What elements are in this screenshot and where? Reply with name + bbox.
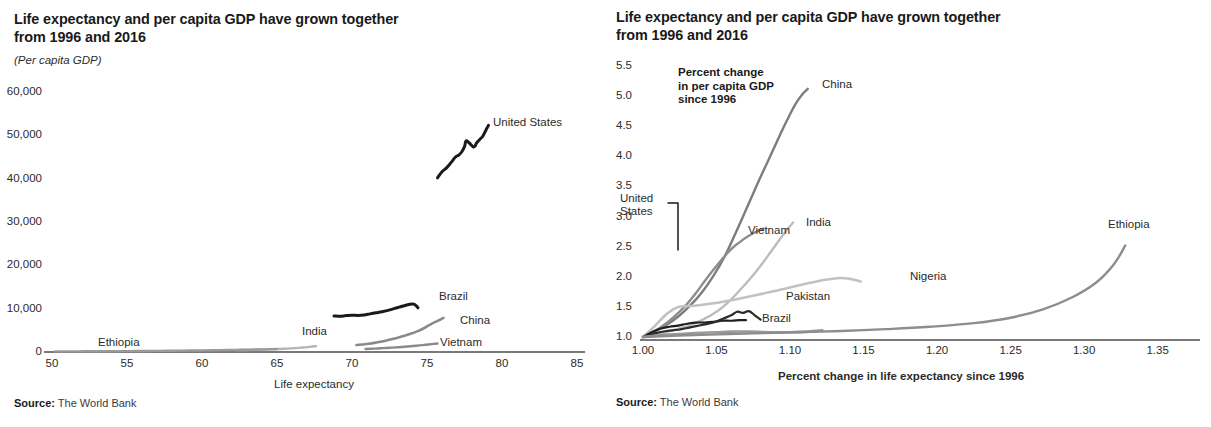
source-text: The World Bank [55, 397, 137, 409]
series-label-nigeria: Nigeria [910, 270, 946, 282]
series-label-china: China [822, 78, 852, 90]
source-note-right: Source: The World Bank [616, 396, 739, 408]
x-tick-label: 1.30 [1066, 344, 1102, 356]
series-label-vietnam: Vietnam [748, 224, 790, 236]
x-tick-label: 1.35 [1140, 344, 1176, 356]
x-axis-title-right: Percent change in life expectancy since … [778, 370, 1024, 382]
right-series-group [643, 89, 1125, 337]
y-tick-label: 50,000 [0, 128, 42, 140]
y-tick-label: 2.0 [606, 270, 632, 282]
y-tick-label: 30,000 [0, 215, 42, 227]
series-line-china [643, 89, 808, 337]
series-line-vietnam [643, 229, 764, 337]
series-label-vietnam: Vietnam [440, 336, 482, 348]
y-tick-label: 1.0 [606, 330, 632, 342]
y-tick-label: 5.5 [606, 59, 632, 71]
x-tick-label: 70 [338, 357, 366, 369]
series-line-brazil [643, 330, 822, 337]
series-line-nigeria [643, 278, 861, 337]
x-tick-label: 85 [563, 357, 591, 369]
source-prefix: Source: [14, 397, 55, 409]
y-tick-label: 3.5 [606, 179, 632, 191]
y-tick-label: 4.0 [606, 149, 632, 161]
page-title: Life expectancy and per capita GDP have … [14, 10, 534, 46]
series-label-india: India [302, 325, 327, 337]
y-tick-label: 2.5 [606, 240, 632, 252]
series-line-ethiopia [55, 349, 277, 351]
x-tick-label: 65 [263, 357, 291, 369]
series-label-ethiopia: Ethiopia [1108, 218, 1150, 230]
y-tick-label: 10,000 [0, 302, 42, 314]
y-tick-label: 40,000 [0, 172, 42, 184]
series-line-pakistan [643, 311, 761, 337]
source-note-left: Source: The World Bank [14, 397, 137, 409]
series-line-china [357, 318, 444, 345]
y-tick-label: 1.5 [606, 300, 632, 312]
series-label-china: China [460, 314, 490, 326]
x-tick-label: 55 [113, 357, 141, 369]
series-line-united-states [643, 320, 746, 337]
series-line-ethiopia [643, 245, 1125, 337]
series-label-brazil: Brazil [439, 290, 468, 302]
x-tick-label: 1.05 [699, 344, 735, 356]
y-tick-label: 0 [0, 345, 42, 357]
x-tick-label: 80 [488, 357, 516, 369]
y-axis-unit-note: (Per capita GDP) [14, 54, 102, 66]
series-label-ethiopia: Ethiopia [98, 336, 140, 348]
x-tick-label: 60 [188, 357, 216, 369]
series-label-india: India [806, 216, 831, 228]
source-text-right: The World Bank [657, 396, 739, 408]
x-tick-label: 1.20 [919, 344, 955, 356]
page-title-right: Life expectancy and per capita GDP have … [616, 8, 1156, 44]
figure-right-percent-change: Life expectancy and per capita GDP have … [600, 0, 1211, 427]
figure-left-per-capita-gdp: Life expectancy and per capita GDP have … [0, 0, 600, 427]
series-label-pakistan: Pakistan [786, 290, 830, 302]
y-tick-label: 60,000 [0, 85, 42, 97]
x-tick-label: 75 [413, 357, 441, 369]
series-line-brazil [334, 304, 418, 316]
series-label-brazil: Brazil [762, 312, 791, 324]
source-prefix-right: Source: [616, 396, 657, 408]
series-line-united-states [438, 125, 489, 177]
x-tick-label: 1.25 [993, 344, 1029, 356]
right-chart-canvas [600, 0, 1211, 427]
y-axis-annotation: Percent change in per capita GDP since 1… [678, 66, 774, 107]
y-tick-label: 4.5 [606, 119, 632, 131]
y-tick-label: 20,000 [0, 258, 42, 270]
series-label-united-states: United States [493, 116, 562, 128]
series-line-vietnam [366, 344, 438, 349]
series-line-india [235, 346, 316, 350]
series-label-united-states: United States [620, 192, 653, 217]
x-tick-label: 1.10 [772, 344, 808, 356]
x-tick-label: 1.15 [846, 344, 882, 356]
y-tick-label: 5.0 [606, 89, 632, 101]
united-states-leader-line [668, 203, 678, 250]
x-axis-title: Life expectancy [274, 378, 354, 390]
left-series-group [55, 125, 489, 351]
x-tick-label: 50 [38, 357, 66, 369]
x-tick-label: 1.00 [625, 344, 661, 356]
